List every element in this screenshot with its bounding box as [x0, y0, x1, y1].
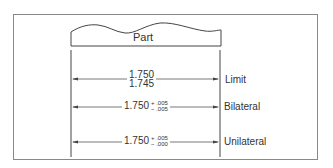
bilateral-minus: − .005 — [151, 106, 168, 112]
part-label: Part — [133, 32, 153, 43]
limit-dimension: 1.750 1.745 — [127, 70, 156, 88]
unilateral-dimension: 1.750+ .005− .000 — [122, 135, 170, 147]
bilateral-dimension: 1.750+ .005− .005 — [122, 100, 170, 112]
bilateral-nominal: 1.750 — [124, 100, 149, 111]
unilateral-minus: − .000 — [151, 141, 168, 147]
unilateral-nominal: 1.750 — [124, 135, 149, 146]
limit-label: Limit — [225, 75, 246, 85]
limit-lower: 1.745 — [129, 79, 154, 88]
bilateral-label: Bilateral — [224, 102, 260, 112]
unilateral-label: Unilateral — [224, 137, 266, 147]
